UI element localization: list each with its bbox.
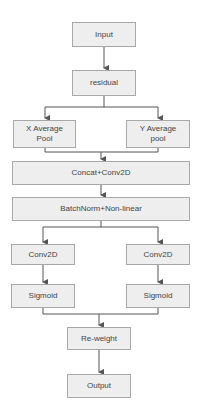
residual-node: residual — [72, 70, 136, 96]
conv2d-right-node: Conv2D — [126, 244, 190, 265]
sigmoid-left-node: Sigmoid — [11, 284, 75, 308]
concat-conv2d-node: Concat+Conv2D — [12, 161, 190, 185]
conv2d-right-label: Conv2D — [144, 250, 173, 260]
sigmoid-right-label: Sigmoid — [144, 291, 173, 301]
x-average-pool-label: X Average Pool — [21, 124, 69, 144]
reweight-node: Re-weight — [67, 327, 131, 350]
conv2d-left-node: Conv2D — [11, 244, 75, 265]
sigmoid-right-node: Sigmoid — [126, 284, 190, 308]
input-label: Input — [95, 30, 113, 40]
x-average-pool-node: X Average Pool — [13, 120, 76, 148]
batchnorm-node: BatchNorm+Non-linear — [12, 197, 190, 221]
residual-label: residual — [90, 78, 118, 88]
concat-conv2d-label: Concat+Conv2D — [72, 168, 131, 178]
batchnorm-label: BatchNorm+Non-linear — [60, 204, 142, 214]
output-node: Output — [67, 374, 131, 398]
reweight-label: Re-weight — [81, 334, 117, 344]
input-node: Input — [72, 22, 136, 47]
conv2d-left-label: Conv2D — [29, 250, 58, 260]
output-label: Output — [87, 381, 111, 391]
y-average-pool-node: Y Average pool — [126, 120, 190, 148]
y-average-pool-label: Y Average pool — [134, 124, 182, 144]
sigmoid-left-label: Sigmoid — [29, 291, 58, 301]
